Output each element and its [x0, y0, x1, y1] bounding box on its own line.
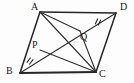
vertex-label-D: D	[120, 2, 127, 12]
side-CB	[20, 72, 96, 73]
segment-AQ	[40, 12, 80, 31]
side-DC	[96, 13, 116, 72]
geometry-canvas	[0, 0, 134, 83]
tick-BP	[27, 57, 33, 64]
vertex-label-C: C	[99, 69, 106, 79]
vertex-label-B: B	[6, 66, 13, 76]
side-AD	[40, 12, 116, 13]
diagonal-AC	[40, 12, 96, 72]
point-label-Q: Q	[80, 32, 87, 42]
geometry-figure: A D B C P Q	[0, 0, 134, 83]
vertex-label-A: A	[31, 2, 38, 12]
tick-QD	[95, 18, 101, 25]
point-label-P: P	[32, 40, 38, 50]
segment-CP	[40, 50, 96, 72]
